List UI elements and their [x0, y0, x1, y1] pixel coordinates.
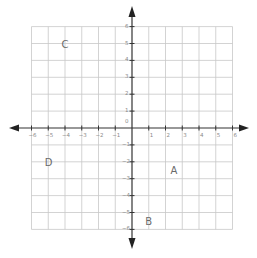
x-tick-label: −3 — [79, 132, 88, 138]
x-tick-label: 4 — [200, 132, 204, 138]
point-label-a: A — [170, 165, 177, 176]
x-tick-label: −6 — [29, 132, 38, 138]
point-label-b: B — [145, 216, 152, 227]
y-tick-label: −2 — [122, 158, 130, 164]
y-tick-labels: 6543210−1−2−3−4−5−6 — [122, 23, 131, 232]
y-tick-label: −3 — [122, 175, 131, 181]
y-tick-label: −4 — [122, 192, 131, 198]
x-axis-left-arrow-icon — [9, 125, 19, 132]
y-tick-label: 0 — [125, 118, 129, 124]
y-tick-label: 3 — [125, 73, 129, 79]
x-tick-label: 3 — [183, 132, 187, 138]
x-tick-label: 6 — [234, 132, 238, 138]
x-tick-label: 5 — [217, 132, 221, 138]
x-tick-label: 2 — [167, 132, 171, 138]
y-tick-label: 2 — [125, 90, 129, 96]
coordinate-plane: −6−5−4−3−2−1123456 6543210−1−2−3−4−5−6 A… — [0, 0, 257, 258]
x-axis-right-arrow-icon — [239, 125, 249, 132]
x-tick-label: −5 — [45, 132, 54, 138]
point-label-c: C — [62, 39, 69, 50]
y-tick-label: 1 — [125, 107, 129, 113]
y-axis-down-arrow-icon — [129, 238, 136, 249]
y-tick-label: −6 — [122, 225, 131, 231]
x-tick-label: −4 — [62, 132, 71, 138]
y-tick-label: 6 — [125, 23, 129, 29]
x-tick-label: −2 — [96, 132, 104, 138]
x-tick-label: −1 — [112, 132, 120, 138]
x-tick-labels: −6−5−4−3−2−1123456 — [29, 132, 238, 138]
y-tick-label: −5 — [122, 209, 131, 215]
y-tick-label: −1 — [122, 141, 130, 147]
point-label-d: D — [45, 157, 53, 168]
y-tick-label: 4 — [125, 56, 129, 62]
y-tick-label: 5 — [125, 40, 129, 46]
x-tick-label: 1 — [150, 132, 154, 138]
y-axis-up-arrow-icon — [129, 6, 136, 17]
